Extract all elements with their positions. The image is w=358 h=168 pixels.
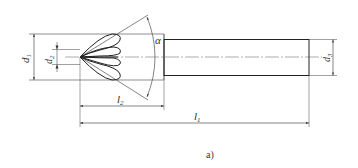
l1-label: l1 [194, 110, 201, 124]
alpha-label: α [155, 34, 161, 46]
cutter-flutes [80, 34, 120, 80]
d2-label: d2 [43, 55, 56, 64]
d3-label: d3 [321, 53, 334, 62]
angle-line-top [80, 15, 148, 57]
d1-label: d1 [19, 54, 33, 63]
tool-drawing: d1 d2 d3 α l2 l1 a) [0, 0, 358, 168]
l2-label: l2 [117, 93, 124, 107]
figure-caption: a) [206, 149, 214, 161]
angle-line-bottom [80, 57, 148, 100]
shank [164, 40, 309, 76]
